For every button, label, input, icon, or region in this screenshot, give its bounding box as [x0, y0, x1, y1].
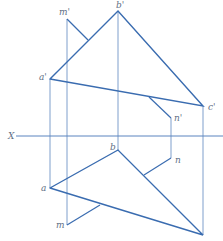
top-segment-n	[144, 158, 171, 175]
label-m-prime: m'	[59, 7, 70, 17]
front-segment-m	[67, 19, 88, 40]
axis-label-x: X	[7, 131, 15, 141]
top-segment-m	[67, 205, 100, 225]
label-b: b	[110, 142, 116, 152]
label-b-prime: b'	[116, 0, 124, 10]
label-c-prime: c'	[208, 102, 216, 112]
label-n: n	[175, 155, 181, 165]
orthographic-projection-diagram: X m' b' a' c' n' b n a m	[0, 0, 223, 241]
label-n-prime: n'	[174, 113, 182, 123]
label-a-prime: a'	[39, 72, 47, 82]
label-a: a	[41, 183, 46, 193]
label-m: m	[56, 220, 65, 230]
